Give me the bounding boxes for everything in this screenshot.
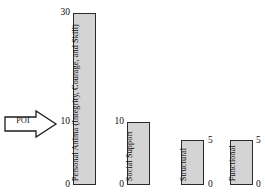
bar-personal-anima: Personal Anima (Integrity, Courage, and …	[73, 13, 96, 185]
bar-label-social-support: Social Support	[126, 131, 134, 181]
bar-social-support: Social Support	[127, 122, 150, 185]
bar-label-personal-anima: Personal Anima (Integrity, Courage, and …	[72, 24, 80, 181]
tick-functional-5: 5	[256, 136, 265, 146]
tick-functional-0: 0	[256, 180, 265, 190]
tick-personal-anima-30: 30	[46, 8, 70, 18]
bar-label-functional: Functional	[229, 145, 237, 181]
tick-personal-anima-0: 0	[46, 180, 70, 190]
bar-functional: Functional	[230, 140, 253, 185]
poi-label: POI	[3, 116, 43, 126]
tick-personal-anima-10: 10	[46, 117, 70, 127]
bar-structural: Structural	[181, 140, 204, 185]
tick-structural-0: 0	[208, 180, 232, 190]
tick-social-support-0: 0	[100, 180, 124, 190]
tick-social-support-10: 10	[100, 117, 124, 127]
tick-structural-5: 5	[208, 136, 232, 146]
bar-label-structural: Structural	[180, 148, 188, 181]
bar-chart-figure: POI Personal Anima (Integrity, Courage, …	[0, 0, 265, 195]
